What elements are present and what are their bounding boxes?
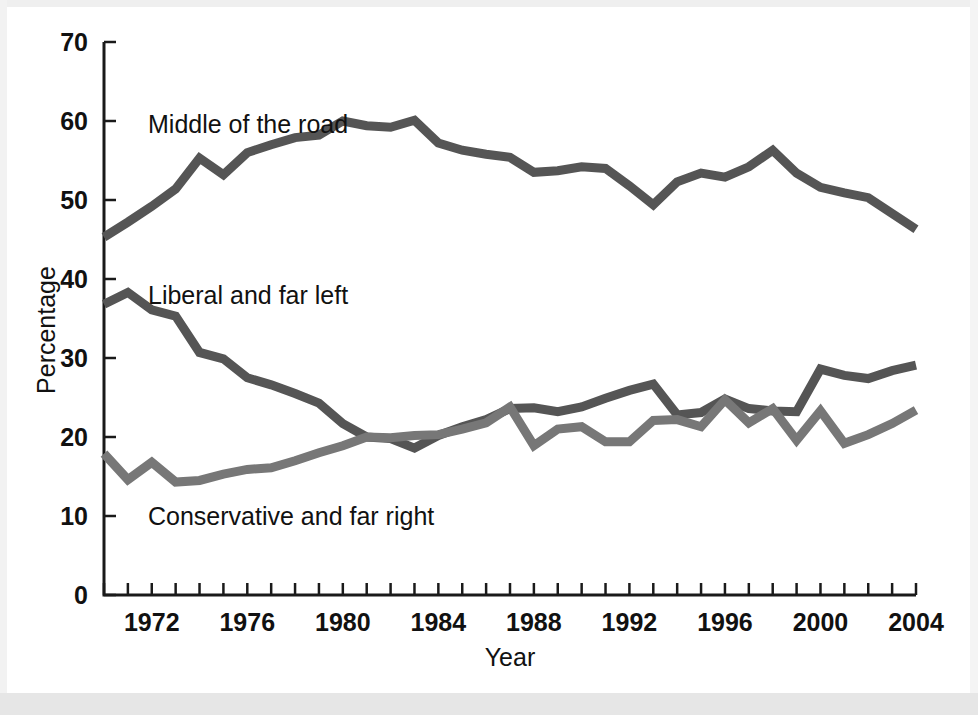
- y-tick-label-30: 30: [60, 344, 88, 372]
- x-tick-label-2004: 2004: [888, 608, 944, 636]
- x-tick-label-2000: 2000: [793, 608, 849, 636]
- y-tick-label-50: 50: [60, 186, 88, 214]
- line-chart: 010203040506070 197219761980198419881992…: [0, 0, 978, 715]
- x-tick-label-1988: 1988: [506, 608, 562, 636]
- x-axis-title: Year: [485, 643, 536, 671]
- x-tick-label-1980: 1980: [315, 608, 371, 636]
- y-tick-label-10: 10: [60, 502, 88, 530]
- y-tick-label-60: 60: [60, 107, 88, 135]
- middle-of-the-road-label: Middle of the road: [148, 110, 348, 138]
- y-axis-ticks: [104, 42, 116, 595]
- x-tick-label-1976: 1976: [219, 608, 275, 636]
- y-tick-label-20: 20: [60, 423, 88, 451]
- y-axis-tick-labels: 010203040506070: [60, 28, 88, 609]
- figure-container: 010203040506070 197219761980198419881992…: [0, 0, 978, 715]
- x-axis-ticks: [104, 583, 916, 595]
- conservative-and-far-right-label: Conservative and far right: [148, 502, 434, 530]
- series-line-liberal-and-far-left: [104, 292, 916, 448]
- liberal-and-far-left-label: Liberal and far left: [148, 281, 348, 309]
- x-tick-label-1992: 1992: [602, 608, 658, 636]
- x-tick-label-1996: 1996: [697, 608, 753, 636]
- y-tick-label-70: 70: [60, 28, 88, 56]
- x-tick-label-1972: 1972: [124, 608, 180, 636]
- x-tick-label-1984: 1984: [411, 608, 467, 636]
- x-axis-tick-labels: 197219761980198419881992199620002004: [124, 608, 944, 636]
- y-axis-title: Percentage: [32, 266, 60, 394]
- y-tick-label-0: 0: [74, 581, 88, 609]
- y-tick-label-40: 40: [60, 265, 88, 293]
